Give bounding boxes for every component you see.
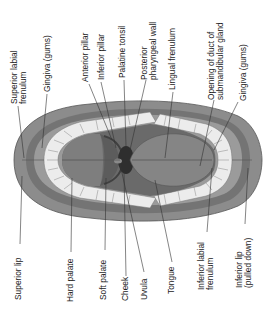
label-line: Palatine tonsil — [118, 26, 127, 78]
label-uvula: Uvula — [140, 279, 149, 300]
label-line: frenulum — [206, 242, 215, 290]
label-posterior-pharyngeal-wall: Posterior pharyngeal wall — [140, 22, 157, 80]
label-line: Soft palate — [99, 260, 108, 300]
label-lingual-frenulum: Lingual frenulum — [168, 28, 177, 90]
uvula — [114, 159, 122, 164]
label-line: Cheek — [121, 277, 130, 301]
label-line: Lingual frenulum — [168, 28, 177, 90]
label-palatine-tonsil: Palatine tonsil — [118, 26, 127, 78]
label-gingiva-lower: Gingiva (gums) — [239, 44, 248, 101]
label-superior-labial-frenulum: Superior labial frenulum — [10, 50, 27, 104]
label-line: submandibular gland — [216, 22, 225, 100]
label-line: Uvula — [140, 279, 149, 300]
label-soft-palate: Soft palate — [99, 260, 108, 300]
label-cheek: Cheek — [121, 277, 130, 301]
label-inferior-lip: Inferior lip (pulled down) — [235, 238, 252, 288]
label-tongue: Tongue — [167, 267, 176, 294]
oral-cavity-illustration — [0, 0, 266, 313]
label-anterior-pillar: Anterior pillar — [81, 33, 90, 82]
label-line: Inferior pillar — [97, 34, 106, 80]
label-inferior-pillar: Inferior pillar — [97, 34, 106, 80]
label-line: pharyngeal wall — [149, 22, 158, 80]
label-line: Gingiva (gums) — [239, 44, 248, 101]
label-line: Hard palate — [66, 259, 75, 302]
label-opening-of-duct: Opening of duct of submandibular gland — [207, 22, 224, 100]
label-line: Anterior pillar — [81, 33, 90, 82]
label-hard-palate: Hard palate — [66, 259, 75, 302]
label-inferior-labial-frenulum: Inferior labial frenulum — [197, 242, 214, 290]
label-line: Superior lip — [14, 258, 23, 300]
label-line: (pulled down) — [244, 238, 253, 288]
label-gingiva-upper: Gingiva (gums) — [43, 35, 52, 92]
label-line: frenulum — [19, 50, 28, 104]
label-line: Gingiva (gums) — [43, 35, 52, 92]
label-superior-lip: Superior lip — [14, 258, 23, 300]
label-line: Tongue — [167, 267, 176, 294]
